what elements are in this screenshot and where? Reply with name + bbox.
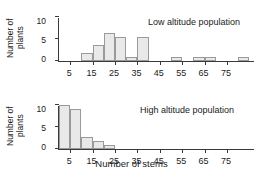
y-tick-mark-high-5 bbox=[55, 126, 59, 127]
y-tick-mark-high-0 bbox=[55, 148, 59, 149]
histogram-bar bbox=[104, 145, 115, 149]
histogram-bar bbox=[93, 45, 104, 61]
x-tick-label: 25 bbox=[105, 68, 123, 78]
histogram-bar bbox=[59, 105, 70, 149]
histogram-bar bbox=[81, 53, 92, 61]
histogram-bar bbox=[81, 137, 92, 149]
x-tick-label: 35 bbox=[127, 68, 145, 78]
x-tick-mark bbox=[70, 149, 71, 153]
x-tick-mark bbox=[93, 149, 94, 153]
x-tick-mark bbox=[115, 149, 116, 153]
annotation-low-altitude: Low altitude population bbox=[148, 17, 240, 27]
x-tick-label: 75 bbox=[217, 68, 235, 78]
x-tick-label: 45 bbox=[150, 68, 168, 78]
y-tick-mark-low-0 bbox=[55, 60, 59, 61]
x-axis-title: Number of stems bbox=[0, 158, 263, 169]
chart-panel-high-altitude: Number of plants 10 5 0 515253545556575 … bbox=[0, 88, 263, 183]
y-tick-label-high-5: 5 bbox=[32, 123, 46, 133]
x-tick-label: 55 bbox=[172, 68, 190, 78]
x-tick-mark bbox=[160, 149, 161, 153]
histogram-bar bbox=[137, 37, 148, 61]
y-axis-title-low: Number of plants bbox=[6, 8, 28, 68]
histogram-bar bbox=[126, 57, 137, 61]
histogram-bar bbox=[104, 33, 115, 61]
histogram-bar bbox=[238, 57, 249, 61]
y-tick-label-low-5: 5 bbox=[32, 35, 46, 45]
x-tick-label: 65 bbox=[195, 68, 213, 78]
histogram-bar bbox=[115, 37, 126, 61]
x-tick-mark bbox=[160, 61, 161, 65]
x-tick-mark bbox=[137, 61, 138, 65]
x-tick-mark bbox=[70, 61, 71, 65]
histogram-bar bbox=[171, 57, 182, 61]
x-tick-mark bbox=[227, 61, 228, 65]
x-tick-mark bbox=[205, 61, 206, 65]
chart-panel-low-altitude: Number of plants 10 5 0 515253545556575 … bbox=[0, 0, 263, 92]
x-tick-mark bbox=[182, 61, 183, 65]
histogram-bar bbox=[193, 57, 204, 61]
y-axis-title-high: Number of plants bbox=[6, 96, 28, 156]
histogram-bar bbox=[70, 109, 81, 149]
x-tick-label: 5 bbox=[60, 68, 78, 78]
histogram-bar bbox=[205, 57, 216, 61]
y-tick-mark-high-10 bbox=[55, 104, 59, 105]
y-tick-label-high-10: 10 bbox=[32, 104, 46, 114]
y-tick-label-low-10: 10 bbox=[32, 16, 46, 26]
y-tick-mark-low-10 bbox=[55, 16, 59, 17]
x-tick-mark bbox=[93, 61, 94, 65]
y-tick-label-low-0: 0 bbox=[32, 54, 46, 64]
x-tick-mark bbox=[205, 149, 206, 153]
y-tick-label-high-0: 0 bbox=[32, 142, 46, 152]
x-tick-mark bbox=[115, 61, 116, 65]
histogram-bar bbox=[93, 141, 104, 149]
x-tick-mark bbox=[182, 149, 183, 153]
y-tick-mark-low-5 bbox=[55, 38, 59, 39]
annotation-high-altitude: High altitude population bbox=[140, 105, 234, 115]
x-tick-mark bbox=[227, 149, 228, 153]
figure-root: Number of plants 10 5 0 515253545556575 … bbox=[0, 0, 263, 183]
x-tick-label: 15 bbox=[83, 68, 101, 78]
x-tick-mark bbox=[137, 149, 138, 153]
